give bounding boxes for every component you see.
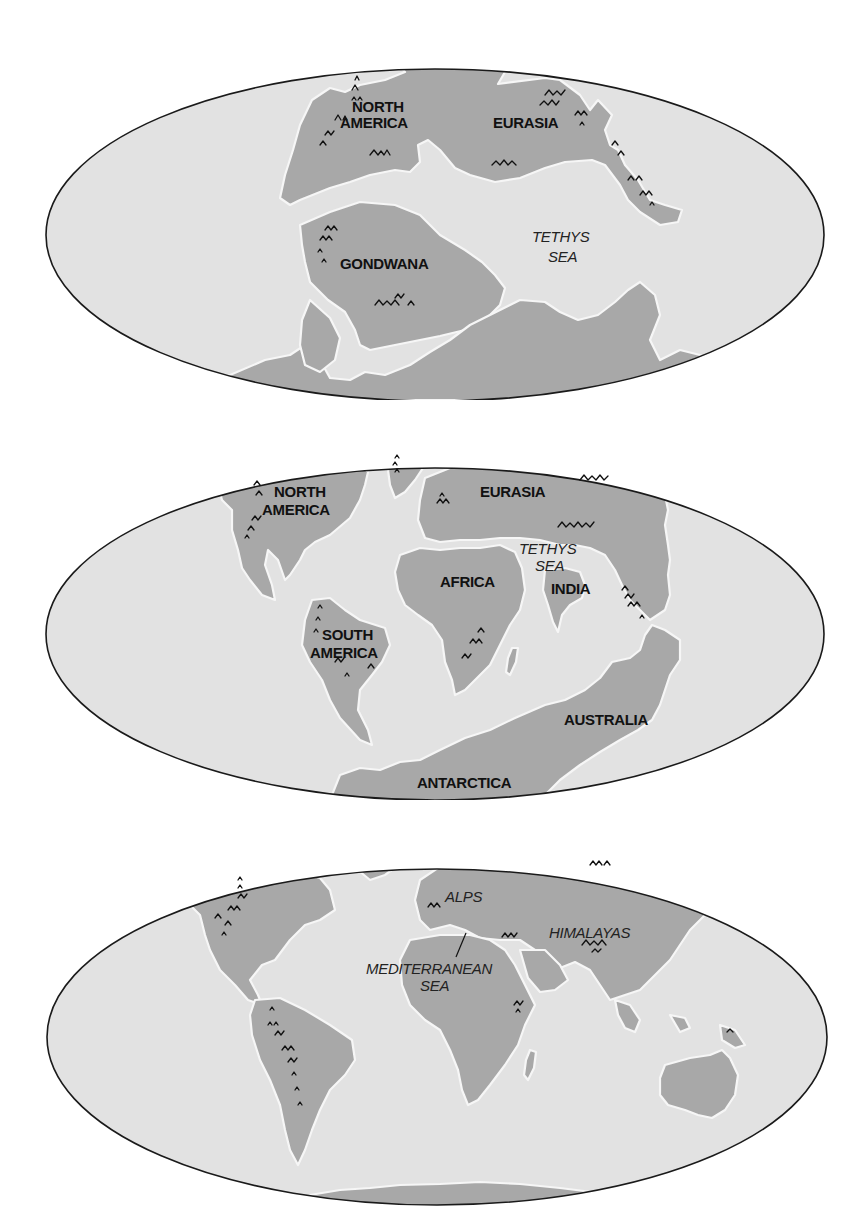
map-present: ALPS HIMALAYAS MEDITERRANEAN SEA — [0, 800, 857, 1207]
label-tethys-sea-line1: TETHYS — [519, 540, 577, 557]
map-pangaea: NORTH AMERICA EURASIA GONDWANA TETHYS SE… — [0, 0, 857, 400]
label-mediterranean-line2: SEA — [420, 977, 449, 994]
label-africa: AFRICA — [440, 573, 495, 590]
label-tethys-sea-line2: SEA — [548, 248, 577, 265]
map-breakup: NORTH AMERICA EURASIA TETHYS SEA AFRICA … — [0, 400, 857, 800]
label-gondwana: GONDWANA — [340, 255, 429, 272]
label-eurasia: EURASIA — [493, 114, 559, 131]
label-mediterranean-line1: MEDITERRANEAN — [366, 960, 493, 977]
label-antarctica: ANTARCTICA — [417, 774, 512, 791]
label-tethys-sea-line2: SEA — [535, 557, 564, 574]
label-tethys-sea-line1: TETHYS — [532, 228, 590, 245]
label-india: INDIA — [551, 580, 591, 597]
map-panel-present: ALPS HIMALAYAS MEDITERRANEAN SEA — [0, 800, 857, 1207]
label-alps: ALPS — [444, 888, 482, 905]
label-south-america-line2: AMERICA — [310, 644, 378, 661]
label-eurasia: EURASIA — [480, 483, 546, 500]
map-panel-pangaea: NORTH AMERICA EURASIA GONDWANA TETHYS SE… — [0, 0, 857, 400]
map-panel-breakup: NORTH AMERICA EURASIA TETHYS SEA AFRICA … — [0, 400, 857, 800]
label-australia: AUSTRALIA — [564, 711, 648, 728]
label-south-america-line1: SOUTH — [322, 626, 373, 643]
label-north-america-line2: AMERICA — [340, 114, 408, 131]
label-himalayas: HIMALAYAS — [549, 924, 631, 941]
label-north-america-line1: NORTH — [274, 483, 326, 500]
label-north-america-line2: AMERICA — [262, 501, 330, 518]
label-north-america-line1: NORTH — [352, 98, 404, 115]
